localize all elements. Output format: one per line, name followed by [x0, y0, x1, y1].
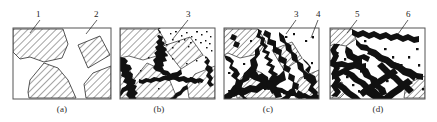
- callout-label-3c: 3: [294, 10, 299, 19]
- caption-d: (d): [358, 104, 398, 114]
- callout-label-5: 5: [355, 10, 360, 19]
- grain-upper-left: [13, 29, 68, 62]
- callout-label-4: 4: [316, 10, 321, 19]
- caption-c: (c): [248, 104, 288, 114]
- panel-b: [113, 20, 215, 107]
- figure-micrograph-series: 1 2 3 3 4 5 6 (a) (b) (c) (d): [0, 0, 437, 122]
- callout-label-3b: 3: [186, 10, 191, 19]
- callout-label-1: 1: [36, 10, 41, 19]
- caption-b: (b): [139, 104, 179, 114]
- callout-label-2: 2: [94, 10, 99, 19]
- caption-a: (a): [42, 104, 82, 114]
- panel-d: [330, 20, 425, 112]
- callout-label-6: 6: [406, 10, 411, 19]
- panel-a: [13, 20, 111, 99]
